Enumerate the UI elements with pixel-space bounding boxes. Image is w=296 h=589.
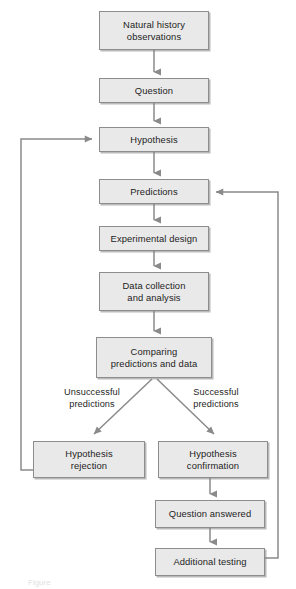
node-hypothesis-rejection[interactable]: Hypothesisrejection	[33, 441, 145, 478]
node-label: Experimental design	[103, 233, 205, 245]
node-question-answered[interactable]: Question answered	[155, 500, 265, 528]
node-label: Question answered	[159, 508, 261, 520]
node-natural-history-observations[interactable]: Natural historyobservations	[99, 11, 209, 50]
node-question[interactable]: Question	[99, 78, 209, 103]
node-label: Predictions	[103, 186, 205, 198]
node-hypothesis-confirmation[interactable]: Hypothesisconfirmation	[158, 441, 268, 478]
node-additional-testing[interactable]: Additional testing	[155, 548, 265, 576]
node-label: Data collectionand analysis	[103, 280, 205, 304]
caption-fragment: Figure	[28, 578, 138, 587]
node-comparing-predictions-and-data[interactable]: Comparingpredictions and data	[96, 337, 212, 378]
node-hypothesis[interactable]: Hypothesis	[99, 127, 209, 152]
node-label: Additional testing	[159, 556, 261, 568]
node-label: Natural historyobservations	[103, 19, 205, 43]
edge-rejection-feedback-loop	[21, 139, 92, 470]
node-experimental-design[interactable]: Experimental design	[99, 226, 209, 251]
node-label: Hypothesisconfirmation	[162, 448, 264, 472]
node-label: Comparingpredictions and data	[100, 346, 208, 370]
node-label: Hypothesisrejection	[37, 448, 141, 472]
node-label: Question	[103, 85, 205, 97]
edge-label-successful-predictions: Successfulpredictions	[168, 386, 264, 410]
edge-label-unsuccessful-predictions: Unsuccessfulpredictions	[44, 386, 140, 410]
node-label: Hypothesis	[103, 134, 205, 146]
flowchart-figure: Natural historyobservations Question Hyp…	[0, 0, 296, 589]
node-predictions[interactable]: Predictions	[99, 179, 209, 204]
node-data-collection-and-analysis[interactable]: Data collectionand analysis	[99, 272, 209, 311]
